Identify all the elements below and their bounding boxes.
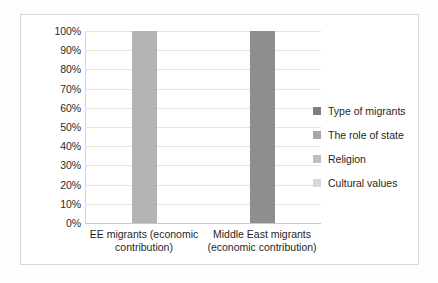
legend-swatch-icon xyxy=(313,179,321,187)
y-axis-tick-label: 80% xyxy=(37,64,81,75)
bar xyxy=(132,31,157,223)
legend-label: Cultural values xyxy=(328,178,397,189)
x-axis-category-label: Middle East migrants(economic contributi… xyxy=(194,228,330,254)
gridline xyxy=(85,69,321,70)
y-axis-tick-label: 100% xyxy=(37,26,81,37)
gridline xyxy=(85,127,321,128)
x-axis-label-line: (economic contribution) xyxy=(194,241,330,254)
legend-label: Religion xyxy=(328,154,366,165)
x-axis-label-line: EE migrants (economic xyxy=(76,228,212,241)
y-axis-tick-label: 20% xyxy=(37,180,81,191)
y-axis-tick-label: 90% xyxy=(37,45,81,56)
legend-swatch-icon xyxy=(313,155,321,163)
bar xyxy=(250,31,275,223)
y-axis-tick-label: 70% xyxy=(37,84,81,95)
x-axis-label-line: contribution) xyxy=(76,241,212,254)
gridline xyxy=(85,108,321,109)
legend-item[interactable]: Cultural values xyxy=(313,171,438,195)
legend-item[interactable]: The role of state xyxy=(313,123,438,147)
y-axis-tick-label: 10% xyxy=(37,199,81,210)
y-axis-tick-label: 40% xyxy=(37,141,81,152)
gridline xyxy=(85,89,321,90)
gridline xyxy=(85,165,321,166)
y-axis-tick-label: 50% xyxy=(37,122,81,133)
gridline xyxy=(85,50,321,51)
y-axis-tick-label: 30% xyxy=(37,160,81,171)
x-axis-category-label: EE migrants (economiccontribution) xyxy=(76,228,212,254)
legend-label: The role of state xyxy=(328,130,404,141)
x-axis-label-line: Middle East migrants xyxy=(194,228,330,241)
y-axis-tick-label: 0% xyxy=(37,218,81,229)
legend-item[interactable]: Type of migrants xyxy=(313,99,438,123)
y-axis-tick-label: 60% xyxy=(37,103,81,114)
gridline xyxy=(85,185,321,186)
plot-area xyxy=(85,31,321,223)
gridline xyxy=(85,204,321,205)
chart-frame: 100%90%80%70%60%50%40%30%20%10%0% EE mig… xyxy=(20,14,419,265)
legend-swatch-icon xyxy=(313,107,321,115)
legend-swatch-icon xyxy=(313,131,321,139)
gridline xyxy=(85,223,321,224)
chart-legend: Type of migrantsThe role of stateReligio… xyxy=(313,99,438,195)
gridline xyxy=(85,146,321,147)
x-axis-category-labels: EE migrants (economiccontribution)Middle… xyxy=(85,228,321,268)
y-axis-tick-labels: 100%90%80%70%60%50%40%30%20%10%0% xyxy=(35,31,81,223)
legend-item[interactable]: Religion xyxy=(313,147,438,171)
gridline xyxy=(85,31,321,32)
legend-label: Type of migrants xyxy=(328,106,406,117)
